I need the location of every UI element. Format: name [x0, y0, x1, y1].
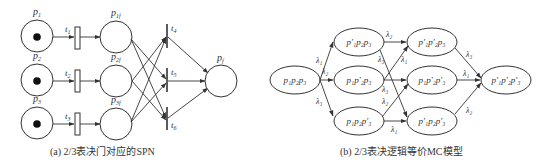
transition-t6: t6	[167, 107, 177, 131]
state-s2: p₁p′₂p₃	[334, 66, 384, 94]
caption-a: (a) 2/3表决门对应的SPN	[50, 145, 155, 158]
state-s3: p₁p₂p′₃	[334, 107, 384, 135]
svg-text:p′₁p′₂p₃: p′₁p′₂p₃	[418, 37, 446, 47]
state-s4: p′₁p′₂p₃	[407, 28, 457, 56]
token-icon	[33, 120, 41, 128]
mc-diagram: p₁p₂p₃ p′₁p₂p₃ p₁p′₂p₃ p₁p₂p′₃ p′₁p′₂p₃ …	[270, 28, 531, 158]
transition-t2: t2	[65, 68, 80, 92]
rate-label: λ₃	[377, 55, 384, 64]
figure: p1 p2 p3 t1 t2 t3	[0, 0, 541, 166]
label-p1: p1	[32, 6, 41, 18]
place-p1: p1	[21, 6, 53, 52]
state-s5: p₁p′₂p′₃	[407, 66, 457, 94]
transition-t5: t5	[167, 67, 177, 92]
label-t2: t2	[65, 68, 71, 79]
rate-label: λ₃	[315, 97, 322, 106]
label-t1: t1	[65, 24, 71, 35]
place-p3f: p3f	[100, 94, 132, 140]
label-t4: t4	[171, 23, 177, 34]
state-s0: p₁p₂p₃	[270, 66, 320, 94]
rate-label: λ₁	[390, 125, 397, 134]
transition-t3: t3	[65, 111, 80, 135]
label-t3: t3	[65, 111, 71, 122]
svg-text:p′₁p′₂p′₃: p′₁p′₂p′₃	[491, 75, 521, 85]
rate-label: λ₁	[400, 55, 407, 64]
label-p1f: p1f	[110, 7, 122, 19]
place-p2f: p2f	[100, 51, 132, 97]
rate-label: λ₂	[465, 106, 472, 115]
state-s6: p′₁p₂p′₃	[407, 107, 457, 135]
rate-label: λ₂	[321, 67, 328, 76]
label-t5: t5	[171, 67, 177, 78]
place-pf: pf	[205, 52, 237, 97]
state-s1: p′₁p₂p₃	[334, 28, 384, 56]
rate-label: λ₂	[385, 30, 392, 39]
rate-label: λ₃	[381, 85, 388, 94]
svg-text:p₁p₂p′₃: p₁p₂p′₃	[346, 116, 372, 126]
svg-text:p₁p′₂p′₃: p₁p′₂p′₃	[418, 75, 446, 85]
rate-label: λ₃	[465, 50, 472, 59]
caption-b: (b) 2/3表决逻辑等价MC模型	[340, 145, 463, 158]
state-s7: p′₁p′₂p′₃	[481, 66, 531, 94]
token-icon	[33, 77, 41, 85]
transition-t1: t1	[65, 24, 80, 49]
rate-label: λ₂	[381, 97, 388, 106]
svg-text:p₁p₂p₃: p₁p₂p₃	[283, 75, 307, 85]
label-pf: pf	[216, 52, 225, 64]
spn-diagram: p1 p2 p3 t1 t2 t3	[21, 6, 237, 158]
token-icon	[33, 33, 41, 41]
place-p3: p3	[21, 93, 53, 139]
rate-label: λ₁	[462, 69, 469, 78]
label-t6: t6	[171, 120, 177, 131]
place-p2: p2	[21, 50, 53, 96]
transition-t4: t4	[167, 23, 177, 48]
svg-text:p′₁p₂p₃: p′₁p₂p₃	[346, 37, 372, 47]
svg-text:p₁p′₂p₃: p₁p′₂p₃	[346, 75, 372, 85]
rate-label: λ₁	[315, 56, 322, 65]
svg-text:p′₁p₂p′₃: p′₁p₂p′₃	[418, 116, 446, 126]
place-p1f: p1f	[100, 7, 132, 53]
